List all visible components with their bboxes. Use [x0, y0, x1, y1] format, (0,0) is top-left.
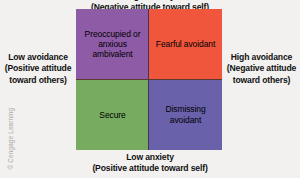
low-anxiety-axis-line-1: Low anxiety	[62, 152, 238, 163]
quadrant-preoccupied-anxious-ambivalent: Preoccupied or anxious ambivalent	[76, 9, 149, 80]
publisher-credit: © Cengage Learning	[7, 98, 14, 170]
quadrant-dismissing-avoidant: Dismissing avoidant	[149, 80, 222, 151]
high-avoidance-axis-line-1: High avoidance	[224, 52, 299, 63]
low-anxiety-axis-line-2: (Positive attitude toward self)	[62, 163, 238, 174]
quadrant-secure-line-1: Secure	[99, 110, 125, 120]
quadrant-dismissing-line-1: Dismissing	[165, 104, 205, 114]
quadrant-preoccupied-line-1: Preoccupied	[85, 29, 131, 39]
high-avoidance-axis-line-2: (Negative attitude	[224, 63, 299, 74]
high-avoidance-axis-line-3: toward others)	[224, 75, 299, 86]
attachment-styles-diagram: High anxiety (Negative attitude toward s…	[0, 0, 300, 178]
quadrant-fearful-label: Fearful avoidant	[156, 39, 215, 49]
quadrant-preoccupied-line-3: ambivalent	[92, 49, 132, 59]
quadrant-matrix: Preoccupied or anxious ambivalent Fearfu…	[76, 9, 222, 150]
low-anxiety-axis-label: Low anxiety (Positive attitude toward se…	[62, 152, 238, 175]
quadrant-fearful-line-1: Fearful	[156, 39, 182, 49]
quadrant-preoccupied-label: Preoccupied or anxious ambivalent	[79, 29, 146, 60]
quadrant-dismissing-line-2: avoidant	[170, 115, 201, 125]
quadrant-secure-label: Secure	[99, 110, 125, 120]
low-avoidance-axis-line-3: toward others)	[1, 75, 75, 86]
quadrant-dismissing-label: Dismissing avoidant	[152, 104, 219, 125]
low-avoidance-axis-line-1: Low avoidance	[1, 52, 75, 63]
quadrant-fearful-line-2: avoidant	[184, 39, 215, 49]
quadrant-secure: Secure	[76, 80, 149, 151]
low-avoidance-axis-line-2: (Positive attitude	[1, 63, 75, 74]
quadrant-fearful-avoidant: Fearful avoidant	[149, 9, 222, 80]
high-avoidance-axis-label: High avoidance (Negative attitude toward…	[224, 52, 299, 86]
low-avoidance-axis-label: Low avoidance (Positive attitude toward …	[1, 52, 75, 86]
